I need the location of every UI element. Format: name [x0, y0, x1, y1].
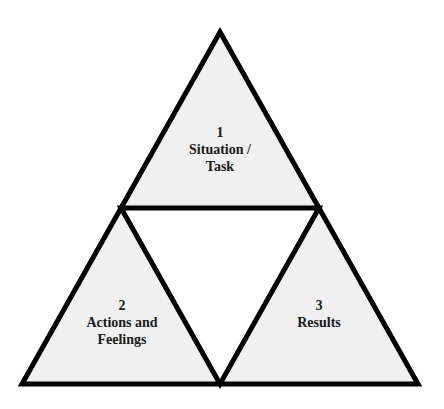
- segment-top-line-1: Situation /: [189, 141, 251, 158]
- segment-bottom-right-line-1: Results: [297, 314, 341, 331]
- segment-bottom-right-number: 3: [297, 297, 341, 314]
- segment-top-number: 1: [189, 124, 251, 141]
- triangle-diagram: 1 Situation / Task 2 Actions and Feeling…: [0, 0, 444, 409]
- segment-bottom-left-line-2: Feelings: [86, 331, 157, 348]
- segment-bottom-left-line-1: Actions and: [86, 314, 157, 331]
- segment-bottom-right-label: 3 Results: [297, 297, 341, 331]
- segment-bottom-left-number: 2: [86, 297, 157, 314]
- segment-top-line-2: Task: [189, 158, 251, 175]
- segment-bottom-left-label: 2 Actions and Feelings: [86, 297, 157, 348]
- segment-top-shape: [121, 32, 319, 208]
- triangle-diagram-graphic: [0, 0, 444, 409]
- segment-top-label: 1 Situation / Task: [189, 124, 251, 175]
